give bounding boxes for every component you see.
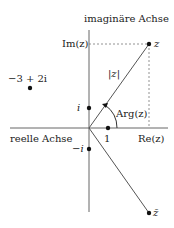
neg-i-label: −i bbox=[72, 144, 84, 154]
neg-i-point bbox=[87, 147, 91, 151]
real-axis-label: reelle Achse bbox=[10, 134, 72, 144]
arg-arrow-icon bbox=[102, 103, 108, 108]
example-label: −3 + 2i bbox=[8, 74, 47, 84]
one-point bbox=[106, 126, 110, 130]
z-label: z bbox=[154, 39, 159, 49]
i-point bbox=[87, 106, 91, 110]
arg-label: Arg(z) bbox=[116, 109, 147, 119]
imag-axis-label: imaginäre Achse bbox=[84, 14, 169, 24]
complex-plane-diagram bbox=[0, 0, 174, 228]
re-label: Re(z) bbox=[138, 134, 165, 144]
im-label: Im(z) bbox=[62, 39, 89, 49]
one-label: 1 bbox=[104, 134, 110, 144]
z-point bbox=[147, 42, 151, 46]
example-point bbox=[28, 86, 32, 90]
z-conj-point bbox=[147, 211, 151, 215]
modulus-label: |z| bbox=[108, 69, 120, 79]
z-conj-label: z̄ bbox=[153, 208, 158, 218]
i-label: i bbox=[77, 103, 80, 113]
